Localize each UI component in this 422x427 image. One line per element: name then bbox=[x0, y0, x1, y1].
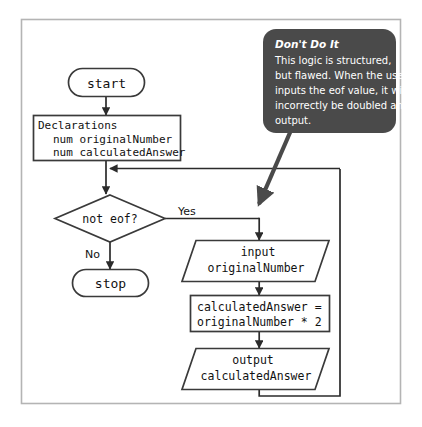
stop-label: stop bbox=[95, 276, 126, 291]
node-process: calculatedAnswer = originalNumber * 2 bbox=[191, 296, 330, 332]
flowchart-figure: start Declarations num originalNumber nu… bbox=[0, 0, 422, 427]
callout-title: Don't Do It bbox=[275, 38, 340, 50]
process-line2: originalNumber * 2 bbox=[197, 315, 322, 329]
output-line1: output bbox=[232, 353, 274, 367]
decision-label: not eof? bbox=[82, 212, 137, 226]
flowchart-canvas: start Declarations num originalNumber nu… bbox=[0, 0, 422, 427]
node-start: start bbox=[69, 69, 145, 97]
process-line1: calculatedAnswer = bbox=[197, 300, 322, 314]
node-output: output calculatedAnswer bbox=[182, 349, 329, 390]
declarations-line2: num originalNumber bbox=[53, 133, 173, 146]
callout-body-line3: inputs the eof value, it will bbox=[275, 85, 408, 96]
input-line2: originalNumber bbox=[208, 261, 305, 275]
declarations-line3: num calculatedAnswer bbox=[53, 146, 186, 159]
callout-body-line2: but flawed. When the user bbox=[275, 70, 408, 81]
node-stop: stop bbox=[73, 270, 149, 297]
branch-label-yes: Yes bbox=[177, 205, 196, 218]
node-declarations: Declarations num originalNumber num calc… bbox=[34, 116, 186, 161]
input-line1: input bbox=[241, 245, 276, 259]
callout-body-line1: This logic is structured, bbox=[274, 55, 391, 66]
callout-body-line4: incorrectly be doubled and bbox=[275, 100, 409, 111]
node-input: input originalNumber bbox=[182, 241, 329, 282]
branch-label-no: No bbox=[85, 248, 100, 261]
declarations-line1: Declarations bbox=[38, 119, 117, 132]
start-label: start bbox=[87, 76, 126, 91]
callout-body-line5: output. bbox=[275, 115, 311, 126]
output-line2: calculatedAnswer bbox=[201, 369, 312, 383]
